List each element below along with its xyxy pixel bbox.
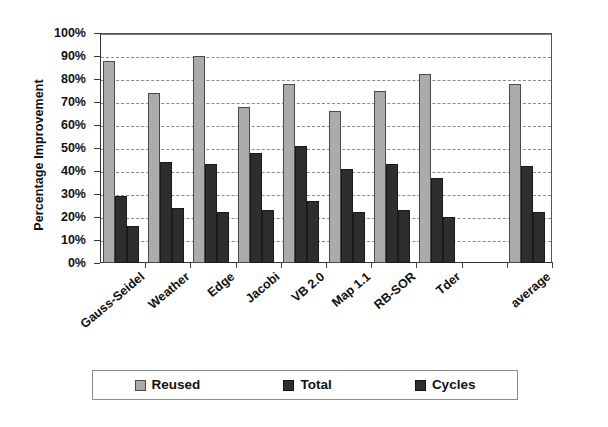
bar-cycles	[533, 212, 545, 263]
y-tick-label: 60%	[40, 118, 86, 132]
bar-group	[462, 33, 507, 263]
bar-reused	[329, 111, 341, 263]
y-tick-label: 40%	[40, 164, 86, 178]
legend-label: Reused	[152, 378, 201, 392]
bar-group	[371, 33, 416, 263]
bar-reused	[148, 93, 160, 263]
bar-total	[250, 153, 262, 263]
bar-reused	[238, 107, 250, 263]
bar-total	[115, 196, 127, 263]
legend-item[interactable]: Reused	[135, 378, 201, 392]
x-tick-label-text: average	[508, 270, 553, 311]
bar-reused	[419, 74, 431, 263]
x-tick-label-text: Jacobi	[243, 270, 282, 306]
x-tick-label-text: VB 2.0	[289, 270, 327, 305]
bar-groups	[100, 33, 552, 263]
legend-swatch-cycles	[415, 380, 426, 391]
y-tick-label: 50%	[40, 141, 86, 155]
bar-group	[100, 33, 145, 263]
y-tick-label: 70%	[40, 95, 86, 109]
legend-label: Cycles	[432, 378, 476, 392]
legend-item[interactable]: Cycles	[415, 378, 476, 392]
bar-reused	[374, 91, 386, 264]
bar-cycles	[353, 212, 365, 263]
legend-label: Total	[300, 378, 331, 392]
bar-reused	[509, 84, 521, 263]
y-tick-label: 10%	[40, 233, 86, 247]
y-tick-label: 20%	[40, 210, 86, 224]
y-tick-label: 80%	[40, 72, 86, 86]
x-tick-label-text: RB-SOR	[371, 270, 418, 312]
y-tick-label: 30%	[40, 187, 86, 201]
x-tick-label-text: Tder	[434, 270, 464, 298]
x-tick-label-text: Map 1.1	[329, 270, 373, 310]
legend-swatch-reused	[135, 380, 146, 391]
y-tick-label: 0%	[40, 256, 86, 270]
bar-group	[236, 33, 281, 263]
bar-reused	[103, 61, 115, 263]
bar-reused	[283, 84, 295, 263]
legend-item[interactable]: Total	[283, 378, 331, 392]
y-tick-label: 100%	[40, 26, 86, 40]
chart-legend: ReusedTotalCycles	[92, 370, 518, 400]
legend-swatch-total	[283, 380, 294, 391]
y-tick-label: 90%	[40, 49, 86, 63]
bar-total	[521, 166, 533, 263]
bar-group	[326, 33, 371, 263]
y-tick-mark	[94, 263, 100, 264]
x-tick-label-text: Weather	[145, 270, 192, 312]
bar-group	[507, 33, 552, 263]
bar-group	[281, 33, 326, 263]
bar-cycles	[262, 210, 274, 263]
bar-group	[416, 33, 461, 263]
bar-cycles	[127, 226, 139, 263]
x-axis-labels: Gauss-SeidelWeatherEdgeJacobiVB 2.0Map 1…	[100, 268, 552, 348]
y-axis-ticks: 100%90%80%70%60%50%40%30%20%10%0%	[0, 0, 100, 427]
x-tick-label-text: Edge	[205, 270, 237, 300]
bar-chart: Percentage Improvement 100%90%80%70%60%5…	[0, 0, 608, 427]
